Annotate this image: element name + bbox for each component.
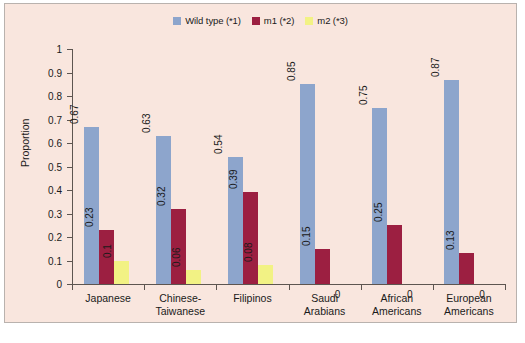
x-axis-tick (433, 285, 434, 290)
x-axis-tick (144, 285, 145, 290)
x-axis-category-label: Filipinos (216, 292, 288, 305)
x-axis-tick (289, 285, 290, 290)
y-axis-tick-label: 0.4 (48, 185, 62, 196)
bar[interactable] (186, 270, 201, 284)
bar[interactable] (243, 192, 258, 284)
bar-group: 0.670.230.1 (84, 49, 129, 284)
y-axis-tick-label: 0.8 (48, 91, 62, 102)
legend-swatch-icon (252, 17, 260, 25)
bar[interactable] (171, 209, 186, 284)
bar[interactable] (459, 253, 474, 284)
bar[interactable] (444, 80, 459, 284)
y-axis-tick-label: 0.6 (48, 138, 62, 149)
y-axis-tick (67, 261, 72, 262)
y-axis-tick (67, 49, 72, 50)
y-axis-title: Proportion (19, 119, 31, 167)
bar-value-label: 0.25 (373, 203, 384, 222)
y-axis-tick-label: 1 (56, 44, 62, 55)
legend-item: Wild type (*1) (173, 15, 241, 26)
y-axis-tick (67, 190, 72, 191)
bar-group: 0.630.320.06 (156, 49, 201, 284)
bar-value-label: 0.85 (286, 62, 297, 81)
y-axis-tick (67, 143, 72, 144)
y-axis-tick-label: 0.2 (48, 232, 62, 243)
bar-value-label: 0.1 (102, 244, 113, 258)
x-axis-category-label: Chinese- Taiwanese (144, 292, 216, 317)
bar-group: 0.870.130 (444, 49, 489, 284)
bar-group: 0.850.150 (300, 49, 345, 284)
y-axis-tick-label: 0.5 (48, 161, 62, 172)
legend-swatch-icon (173, 17, 181, 25)
bar-value-label: 0.67 (69, 104, 80, 123)
x-axis-category-label: European Americans (433, 292, 505, 317)
y-axis-tick-label: 0.3 (48, 208, 62, 219)
bar-value-label: 0.06 (172, 247, 183, 266)
y-axis-tick-label: 0 (56, 279, 62, 290)
x-axis-tick (505, 285, 506, 290)
legend-item: m1 (*2) (252, 15, 294, 26)
bar-value-label: 0.39 (229, 170, 240, 189)
legend-swatch-icon (305, 17, 313, 25)
bar[interactable] (114, 261, 129, 285)
y-axis-tick-label: 0.9 (48, 67, 62, 78)
bar-group: 0.750.250 (372, 49, 417, 284)
legend-item-label: m1 (*2) (264, 15, 294, 26)
bar-value-label: 0.54 (214, 135, 225, 154)
legend-item-label: m2 (*3) (317, 15, 347, 26)
bar-value-label: 0.08 (244, 243, 255, 262)
bar-value-label: 0.63 (142, 113, 153, 132)
bar-value-label: 0.87 (430, 57, 441, 76)
x-axis-category-label: Saudi Arabians (289, 292, 361, 317)
y-axis-tick (67, 214, 72, 215)
y-axis-tick (67, 96, 72, 97)
plot-area: 00.10.20.30.40.50.60.70.80.910.670.230.1… (72, 49, 505, 284)
chart-legend: Wild type (*1)m1 (*2)m2 (*3) (5, 15, 516, 26)
bar-value-label: 0.13 (445, 231, 456, 250)
y-axis-tick (67, 73, 72, 74)
bar[interactable] (300, 84, 315, 284)
chart-panel: Wild type (*1)m1 (*2)m2 (*3) Proportion … (4, 3, 517, 323)
y-axis-tick (67, 167, 72, 168)
bar[interactable] (315, 249, 330, 284)
bar[interactable] (156, 136, 171, 284)
x-axis-tick (216, 285, 217, 290)
y-axis-tick-label: 0.7 (48, 114, 62, 125)
chart-figure: Wild type (*1)m1 (*2)m2 (*3) Proportion … (0, 0, 525, 343)
x-axis-category-label: Japanese (72, 292, 144, 305)
bar[interactable] (84, 127, 99, 284)
bar-value-label: 0.75 (358, 85, 369, 104)
bar-value-label: 0.15 (301, 226, 312, 245)
bar[interactable] (258, 265, 273, 284)
bar[interactable] (387, 225, 402, 284)
legend-item-label: Wild type (*1) (185, 15, 241, 26)
y-axis-tick (67, 237, 72, 238)
bar[interactable] (372, 108, 387, 284)
x-axis-tick (361, 285, 362, 290)
bar-value-label: 0.23 (84, 207, 95, 226)
bar-value-label: 0.32 (157, 186, 168, 205)
legend-item: m2 (*3) (305, 15, 347, 26)
x-axis-category-label: African Americans (361, 292, 433, 317)
y-axis-tick-label: 0.1 (48, 255, 62, 266)
bar-group: 0.540.390.08 (228, 49, 273, 284)
x-axis-tick (72, 285, 73, 290)
